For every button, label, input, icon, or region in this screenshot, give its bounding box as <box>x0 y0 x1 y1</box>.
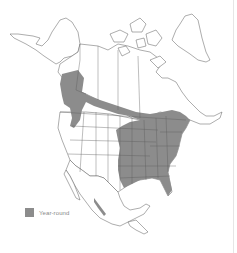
arctic-island <box>110 30 128 42</box>
right-edge-divider <box>233 0 234 253</box>
arctic-island <box>146 30 162 46</box>
greenland-outline <box>172 14 210 62</box>
legend-swatch-year-round <box>25 208 34 217</box>
alaska-outline <box>10 18 80 64</box>
map-legend: Year-round <box>25 208 69 217</box>
central-america-outline <box>128 220 148 234</box>
legend-label-year-round: Year-round <box>39 210 69 216</box>
arctic-island <box>130 18 146 32</box>
arctic-island <box>136 38 146 48</box>
